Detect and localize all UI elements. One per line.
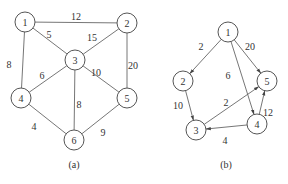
- edge-weight: 20: [245, 41, 255, 52]
- graph-diagram: 12581520610849 123456 2206102412 12345 (…: [0, 0, 288, 184]
- node-label: 5: [125, 93, 130, 104]
- edge-weight: 4: [32, 121, 37, 132]
- edge-weight: 2: [224, 97, 229, 108]
- edge-1-2: [35, 22, 117, 23]
- node-5: 5: [257, 71, 277, 91]
- node-1: 1: [15, 12, 35, 32]
- node-label: 2: [181, 76, 186, 87]
- edge-1-2: [190, 39, 221, 73]
- edge-weight: 12: [263, 107, 273, 118]
- edge-weight: 6: [226, 70, 231, 81]
- node-5: 5: [117, 88, 137, 108]
- edge-3-6: [74, 70, 75, 130]
- edge-4-3: [206, 125, 247, 129]
- node-label: 2: [125, 18, 130, 29]
- caption-a: (a): [68, 159, 79, 171]
- edge-weight: 4: [223, 135, 228, 146]
- edge-weight: 10: [173, 100, 183, 111]
- edge-weight: 8: [77, 99, 82, 110]
- node-label: 1: [226, 27, 231, 38]
- node-4: 4: [247, 114, 267, 134]
- edge-weight: 15: [87, 32, 97, 43]
- node-1: 1: [218, 22, 238, 42]
- edge-weight: 12: [71, 11, 81, 22]
- node-2: 2: [173, 71, 193, 91]
- node-label: 6: [72, 135, 77, 146]
- edge-weight: 8: [7, 59, 12, 70]
- node-label: 3: [194, 125, 199, 136]
- edge-3-5: [83, 66, 119, 92]
- edge-2-3: [186, 91, 194, 121]
- edge-weight: 5: [47, 29, 52, 40]
- graph-b-nodes: 12345: [173, 22, 277, 140]
- edge-weight: 10: [91, 67, 101, 78]
- node-3: 3: [65, 50, 85, 70]
- edge-weight: 2: [199, 41, 204, 52]
- node-2: 2: [117, 13, 137, 33]
- edge-1-4: [22, 32, 25, 88]
- edge-weight: 9: [101, 127, 106, 138]
- caption-b: (b): [220, 159, 232, 171]
- node-label: 3: [73, 55, 78, 66]
- node-label: 5: [265, 76, 270, 87]
- edge-weight: 20: [128, 60, 138, 71]
- node-3: 3: [186, 120, 206, 140]
- node-label: 4: [19, 93, 24, 104]
- node-label: 4: [255, 119, 260, 130]
- node-6: 6: [64, 130, 84, 150]
- edge-3-4: [29, 66, 67, 92]
- node-4: 4: [11, 88, 31, 108]
- node-label: 1: [23, 17, 28, 28]
- edge-weight: 6: [40, 70, 45, 81]
